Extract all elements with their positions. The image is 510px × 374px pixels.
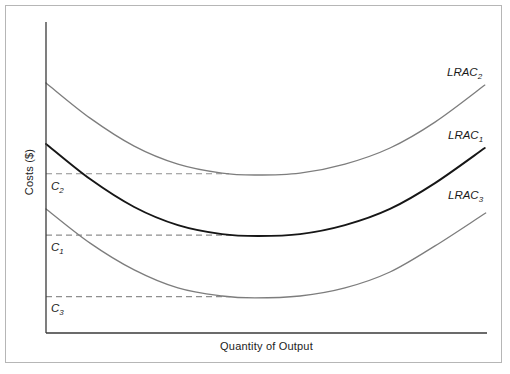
cost-level-label-c2-sub: 2 — [59, 186, 63, 195]
curve-label-lrac3: LRAC3 — [448, 189, 483, 204]
curve-label-lrac2: LRAC2 — [447, 66, 482, 81]
curve-lrac3 — [46, 209, 486, 298]
lrac-cost-figure: Costs ($) Quantity of Output LRAC2 LRAC1… — [0, 0, 510, 374]
cost-level-label-c3-sub: 3 — [59, 308, 63, 317]
cost-level-label-c1-sub: 1 — [59, 247, 63, 256]
curve-label-lrac3-sub: 3 — [479, 195, 483, 204]
cost-level-label-c3: C3 — [51, 302, 64, 317]
x-axis-title: Quantity of Output — [46, 340, 487, 352]
curve-label-lrac3-main: LRAC — [448, 189, 479, 201]
reference-dashed-lines — [46, 174, 231, 297]
curve-label-lrac2-sub: 2 — [478, 72, 482, 81]
lrac-curves — [46, 83, 486, 298]
chart-canvas — [0, 0, 510, 374]
cost-level-label-c2: C2 — [51, 180, 64, 195]
curve-label-lrac1-sub: 1 — [479, 135, 483, 144]
curve-label-lrac1: LRAC1 — [448, 129, 483, 144]
curve-label-lrac1-main: LRAC — [448, 129, 479, 141]
cost-level-label-c1: C1 — [51, 241, 64, 256]
curve-lrac1 — [46, 144, 485, 236]
y-axis-title: Costs ($) — [23, 149, 35, 195]
curve-label-lrac2-main: LRAC — [447, 66, 478, 78]
curve-lrac2 — [46, 83, 485, 175]
